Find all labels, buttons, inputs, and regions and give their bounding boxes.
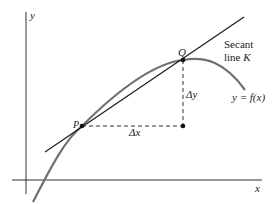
- point-p: [80, 124, 85, 129]
- secant-line-k: [45, 17, 244, 152]
- point-p-label: P: [73, 120, 79, 130]
- corner-point: [181, 124, 186, 129]
- secant-label-line1: Secant: [224, 39, 253, 50]
- secant-label-k: K: [243, 51, 250, 63]
- delta-x-label: Δx: [129, 127, 140, 138]
- curve-label: y = f(x): [232, 92, 265, 103]
- y-axis-label: y: [30, 10, 35, 21]
- x-axis-label: x: [255, 183, 260, 194]
- secant-label-line-word: line: [224, 51, 243, 63]
- secant-line-diagram: y x P Q Secant line K y = f(x) Δx Δy: [0, 0, 275, 204]
- point-q-label: Q: [178, 47, 186, 58]
- delta-y-label: Δy: [186, 89, 197, 100]
- point-q: [181, 58, 186, 63]
- secant-label-line2: line K: [224, 52, 251, 63]
